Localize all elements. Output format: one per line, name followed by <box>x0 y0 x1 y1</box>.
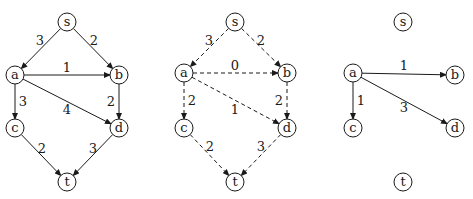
node-label: t <box>400 174 406 189</box>
edge-weight-label: 3 <box>36 33 44 48</box>
edge-a-d: 4 <box>23 79 111 124</box>
edge-weight-label: 2 <box>275 93 283 108</box>
edge-c-t: 2 <box>21 134 61 175</box>
edge-d-t: 3 <box>73 134 113 175</box>
edge-weight-label: 2 <box>206 139 214 154</box>
node-label: d <box>283 120 291 135</box>
edge-weight-label: 2 <box>188 93 196 108</box>
edge-weight-label: 1 <box>231 102 239 117</box>
edge-weight-label: 1 <box>357 93 365 108</box>
node-d: d <box>278 119 296 137</box>
node-a: a <box>6 66 24 84</box>
node-label: t <box>232 174 238 189</box>
node-t: t <box>394 173 412 191</box>
flow-network-diagram: 32134223sabcdt32021223sabcdt113sabcdt <box>0 0 473 199</box>
edge-weight-label: 3 <box>19 94 27 109</box>
edge-s-b: 2 <box>73 28 112 68</box>
node-s: s <box>226 13 244 31</box>
node-a: a <box>344 64 362 82</box>
node-label: b <box>115 67 123 82</box>
node-b: b <box>446 66 464 84</box>
edge-weight-label: 2 <box>107 94 115 109</box>
node-label: c <box>11 120 18 135</box>
node-c: c <box>6 119 24 137</box>
edge-b-d: 2 <box>107 84 119 119</box>
edge-a-c: 3 <box>15 84 27 119</box>
node-label: d <box>115 120 123 135</box>
edge-a-b: 1 <box>362 58 446 75</box>
node-s: s <box>58 13 76 31</box>
edge-a-c: 2 <box>184 82 196 119</box>
node-label: s <box>64 14 71 29</box>
residual-subgraph: 113sabcdt <box>344 13 464 191</box>
edge-a-b: 1 <box>24 60 110 76</box>
edge-weight-label: 4 <box>63 102 71 117</box>
node-label: b <box>283 65 291 80</box>
node-d: d <box>110 119 128 137</box>
node-t: t <box>226 173 244 191</box>
node-c: c <box>175 119 193 137</box>
node-t: t <box>58 173 76 191</box>
node-s: s <box>394 13 412 31</box>
node-c: c <box>344 119 362 137</box>
node-label: s <box>232 14 239 29</box>
node-d: d <box>446 119 464 137</box>
edge-weight-label: 2 <box>257 33 265 48</box>
node-label: t <box>64 174 70 189</box>
edge-b-d: 2 <box>275 82 287 119</box>
edge-weight-label: 1 <box>63 60 71 75</box>
edge-weight-label: 3 <box>400 100 408 115</box>
edge-weight-label: 2 <box>38 141 46 156</box>
node-label: s <box>400 14 407 29</box>
arrow-icon <box>362 73 446 75</box>
node-label: d <box>451 120 459 135</box>
edge-weight-label: 0 <box>231 58 239 73</box>
edge-s-b: 2 <box>241 28 280 66</box>
node-a: a <box>175 64 193 82</box>
node-label: c <box>180 120 187 135</box>
edge-s-a: 3 <box>21 28 60 68</box>
node-label: a <box>11 67 19 82</box>
dashed-flow-network: 32021223sabcdt <box>175 13 296 191</box>
edge-weight-label: 2 <box>90 33 98 48</box>
node-label: b <box>451 67 459 82</box>
edge-a-d: 1 <box>192 77 279 124</box>
node-label: c <box>349 120 356 135</box>
edge-d-t: 3 <box>241 134 281 175</box>
edge-a-b: 0 <box>193 58 278 74</box>
edge-weight-label: 3 <box>205 33 213 48</box>
node-label: a <box>180 65 188 80</box>
arrow-icon <box>192 77 279 124</box>
edge-a-c: 1 <box>353 82 365 119</box>
node-label: a <box>349 65 357 80</box>
edge-weight-label: 1 <box>400 58 408 73</box>
node-b: b <box>278 64 296 82</box>
edge-weight-label: 3 <box>89 141 97 156</box>
node-b: b <box>110 66 128 84</box>
edge-c-t: 2 <box>190 135 229 176</box>
original-flow-network: 32134223sabcdt <box>6 13 128 191</box>
edge-weight-label: 3 <box>257 139 265 154</box>
edge-s-a: 3 <box>190 28 228 66</box>
edge-a-d: 3 <box>361 77 447 123</box>
